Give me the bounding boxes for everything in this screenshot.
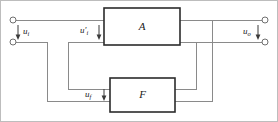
label-input-voltage-base: u bbox=[23, 26, 28, 36]
terminal-output-bottom bbox=[262, 39, 268, 45]
label-feedback-voltage-sub: f bbox=[90, 93, 92, 100]
terminal-output-top bbox=[262, 17, 268, 23]
wire-node-to-f-top bbox=[68, 42, 110, 89]
label-input-voltage: ui bbox=[23, 27, 29, 36]
label-net-input-voltage-sub: i bbox=[86, 29, 88, 36]
block-a-label: A bbox=[138, 20, 146, 32]
label-output-voltage: uo bbox=[243, 27, 251, 36]
label-feedback-voltage-base: u bbox=[85, 89, 90, 99]
label-output-voltage-base: u bbox=[243, 26, 248, 36]
arrow-uf-head bbox=[102, 96, 107, 102]
wire-input-bottom-to-f bbox=[16, 42, 110, 101]
label-output-voltage-sub: o bbox=[248, 30, 251, 37]
label-feedback-voltage: uf bbox=[85, 90, 91, 99]
terminal-input-top bbox=[10, 17, 16, 23]
label-net-input-voltage: u′i bbox=[80, 26, 88, 35]
block-f-label: F bbox=[138, 88, 146, 100]
wire-out-bottom-to-f-top bbox=[175, 42, 196, 89]
arrow-uo-head bbox=[256, 35, 261, 41]
feedback-amplifier-diagram: A F ui u′i uf uo bbox=[0, 0, 278, 122]
label-input-voltage-sub: i bbox=[28, 30, 30, 37]
terminal-input-bottom bbox=[10, 39, 16, 45]
arrow-ui-head bbox=[16, 35, 21, 41]
arrow-uid-head bbox=[97, 35, 102, 41]
diagram-canvas: A F bbox=[0, 0, 278, 122]
